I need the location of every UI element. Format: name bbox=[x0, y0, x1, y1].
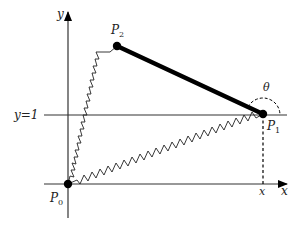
label-p1: P1 bbox=[266, 119, 280, 135]
y-axis-label: y bbox=[56, 7, 64, 21]
x-axis-label: x bbox=[281, 184, 288, 198]
diagram-canvas: y x x y=1 θ P0 P1 P2 bbox=[0, 0, 302, 228]
y-equals-1-label: y=1 bbox=[13, 108, 38, 122]
rigid-rod bbox=[117, 46, 263, 114]
point-p0 bbox=[64, 180, 72, 188]
theta-label: θ bbox=[263, 81, 270, 94]
projection-x-label: x bbox=[259, 185, 266, 198]
label-p0: P0 bbox=[49, 191, 63, 207]
point-p2 bbox=[113, 42, 121, 50]
spring-p0-p1 bbox=[68, 112, 263, 184]
point-p1 bbox=[259, 110, 267, 118]
label-p2: P2 bbox=[110, 23, 124, 39]
